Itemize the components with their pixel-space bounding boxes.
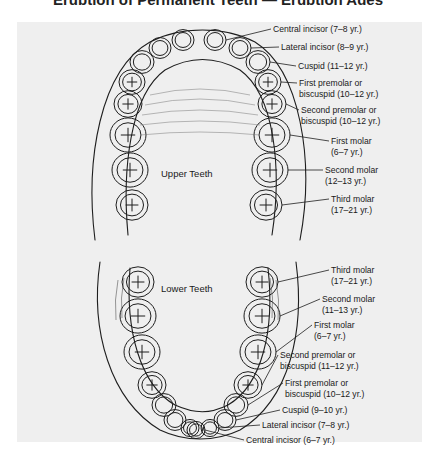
lower-label-3-line2: biscuspid (11–12 yr.) bbox=[280, 361, 359, 372]
lower-label-6-line1: Lateral incisor (7–8 yr.) bbox=[262, 420, 349, 431]
upper-label-7-line1: Third molar bbox=[331, 194, 374, 205]
lower-label-0-leader-line bbox=[278, 270, 329, 282]
lower-tooth-right-0-fissure bbox=[256, 276, 269, 289]
lower-label-4: First premolar orbiscuspid (10–12 yr.) bbox=[285, 378, 364, 399]
upper-tooth-left-0-crown bbox=[175, 33, 191, 48]
lower-label-7-line1: Central incisor (6–7 yr.) bbox=[246, 435, 335, 446]
upper-label-3: First premolar orbiscuspid (10–12 yr.) bbox=[299, 78, 378, 99]
upper-label-5-leader-line bbox=[290, 135, 329, 141]
upper-label-7: Third molar(17–21 yr.) bbox=[331, 194, 374, 215]
upper-label-0-line1: Central incisor (7–8 yr.) bbox=[273, 24, 362, 35]
upper-label-4: Second premolar orbiscuspid (10–12 yr.) bbox=[301, 105, 380, 126]
lower-tooth-right-1-fissure bbox=[255, 309, 269, 323]
upper-tooth-right-3-fissure bbox=[263, 77, 273, 87]
upper-tooth-right-6-fissure bbox=[263, 163, 277, 177]
upper-tooth-right-5-fissure bbox=[265, 128, 279, 142]
upper-label-2-line1: Cuspid (11–12 yr.) bbox=[298, 61, 368, 72]
upper-label-4-line2: biscuspid (10–12 yr.) bbox=[301, 116, 380, 127]
upper-label-0: Central incisor (7–8 yr.) bbox=[273, 24, 362, 35]
lower-label-2-leader-line bbox=[276, 325, 312, 352]
lower-label-1-line2: (11–13 yr.) bbox=[322, 305, 375, 316]
lower-tooth-left-0-fissure bbox=[132, 276, 145, 289]
upper-label-1-leader-line bbox=[251, 47, 279, 48]
lower-label-7: Central incisor (6–7 yr.) bbox=[246, 435, 335, 446]
lower-label-2: First molar(6–7 yr.) bbox=[314, 320, 355, 341]
upper-tooth-left-4-fissure bbox=[122, 98, 133, 109]
upper-teeth-label: Upper Teeth bbox=[161, 168, 213, 179]
lower-label-0: Third molar(17–21 yr.) bbox=[331, 265, 374, 286]
upper-tooth-right-0-crown bbox=[207, 33, 223, 48]
lower-label-3: Second premolar orbiscuspid (11–12 yr.) bbox=[280, 350, 359, 371]
lower-label-2-line1: First molar bbox=[314, 320, 355, 331]
upper-label-5: First molar(6–7 yr.) bbox=[331, 136, 372, 157]
lower-label-2-line2: (6–7 yr.) bbox=[314, 331, 355, 342]
lower-label-4-line2: biscuspid (10–12 yr.) bbox=[285, 389, 364, 400]
palate-shading bbox=[140, 89, 260, 135]
upper-label-3-line2: biscuspid (10–12 yr.) bbox=[299, 89, 378, 100]
lower-label-1-line1: Second molar bbox=[322, 294, 375, 305]
upper-label-1-line1: Lateral incisor (8–9 yr.) bbox=[281, 42, 368, 53]
lower-label-1: Second molar(11–13 yr.) bbox=[322, 294, 375, 315]
lower-label-4-line1: First premolar or bbox=[285, 378, 364, 389]
upper-label-1: Lateral incisor (8–9 yr.) bbox=[281, 42, 368, 53]
upper-label-3-leader-line bbox=[281, 82, 297, 83]
lower-label-5-line1: Cuspid (9–10 yr.) bbox=[282, 405, 347, 416]
lower-label-3-line1: Second premolar or bbox=[280, 350, 359, 361]
lower-tooth-left-5-crown bbox=[167, 413, 183, 428]
upper-tooth-left-7-fissure bbox=[126, 199, 139, 212]
upper-label-5-line2: (6–7 yr.) bbox=[331, 147, 372, 158]
upper-tooth-left-3-fissure bbox=[127, 77, 137, 87]
upper-label-6-line2: (12–13 yr.) bbox=[325, 176, 378, 187]
lower-label-1-leader-line bbox=[280, 299, 320, 316]
lower-tooth-right-5-crown bbox=[217, 413, 233, 428]
upper-label-6-line1: Second molar bbox=[325, 165, 378, 176]
lower-label-4-leader-line bbox=[248, 383, 283, 405]
upper-arch-inner bbox=[126, 60, 276, 236]
upper-tooth-right-7-fissure bbox=[260, 199, 273, 212]
upper-tooth-left-6-fissure bbox=[123, 163, 137, 177]
upper-label-2-leader-line bbox=[270, 62, 296, 66]
upper-label-7-line2: (17–21 yr.) bbox=[331, 205, 374, 216]
upper-tooth-left-1-crown bbox=[152, 41, 168, 56]
upper-tooth-right-2-crown bbox=[249, 54, 266, 70]
lower-label-5: Cuspid (9–10 yr.) bbox=[282, 405, 347, 416]
upper-label-2: Cuspid (11–12 yr.) bbox=[298, 61, 368, 72]
upper-tooth-right-4-fissure bbox=[266, 98, 277, 109]
upper-tooth-left-2-crown bbox=[133, 54, 150, 70]
lower-tooth-left-2-fissure bbox=[135, 345, 149, 359]
lower-label-6-leader-line bbox=[219, 425, 260, 428]
lower-tooth-left-1-fissure bbox=[131, 309, 145, 323]
lower-label-0-line2: (17–21 yr.) bbox=[331, 276, 374, 287]
upper-tooth-right-1-crown bbox=[232, 41, 248, 56]
lower-label-6: Lateral incisor (7–8 yr.) bbox=[262, 420, 349, 431]
upper-label-4-line1: Second premolar or bbox=[301, 105, 380, 116]
lower-teeth-label: Lower Teeth bbox=[161, 283, 213, 294]
upper-label-5-line1: First molar bbox=[331, 136, 372, 147]
lower-label-0-line1: Third molar bbox=[331, 265, 374, 276]
lower-label-3-leader-line bbox=[262, 355, 278, 385]
dental-arch-diagram bbox=[0, 0, 436, 461]
upper-label-6: Second molar(12–13 yr.) bbox=[325, 165, 378, 186]
lower-tooth-right-2-fissure bbox=[251, 345, 265, 359]
upper-label-3-line1: First premolar or bbox=[299, 78, 378, 89]
